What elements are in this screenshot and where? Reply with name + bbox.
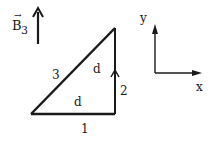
coordinate-axes: y x <box>139 11 203 94</box>
y-axis-label: y <box>139 11 147 25</box>
y-axis-arrow-icon <box>152 24 158 34</box>
base-length-label: d <box>74 95 82 109</box>
triangle-loop: 1 2 3 d d <box>31 28 128 136</box>
field-subscript: 3 <box>21 24 28 37</box>
x-axis-label: x <box>196 80 203 94</box>
magnetic-field-vector: → B 3 <box>12 8 43 44</box>
side-1-label: 1 <box>81 122 89 136</box>
side-3 <box>31 28 115 114</box>
diagram-canvas: → B 3 1 2 3 d d y x <box>0 0 214 142</box>
side-2-label: 2 <box>120 84 128 98</box>
side-3-label: 3 <box>52 68 60 82</box>
side-2-length-label: d <box>93 62 101 76</box>
x-axis-arrow-icon <box>192 70 202 76</box>
